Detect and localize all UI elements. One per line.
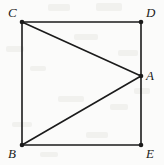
vertex-dot-b: [20, 143, 25, 148]
vertex-dot-a: [139, 74, 144, 79]
diagonal-BA: [22, 76, 141, 145]
vertex-dot-c: [20, 20, 25, 25]
segments-group: [22, 22, 141, 145]
vertices-group: [20, 20, 144, 148]
diagonal-CA: [22, 22, 141, 76]
vertex-label-d: D: [146, 6, 155, 19]
vertex-dot-e: [139, 143, 144, 148]
vertex-label-b: B: [8, 147, 16, 160]
vertex-label-a: A: [146, 69, 154, 82]
vertex-dot-d: [139, 20, 144, 25]
geometry-figure: CDABE: [0, 0, 164, 165]
vertex-label-e: E: [146, 147, 154, 160]
figure-canvas: [0, 0, 164, 165]
vertex-label-c: C: [8, 6, 17, 19]
